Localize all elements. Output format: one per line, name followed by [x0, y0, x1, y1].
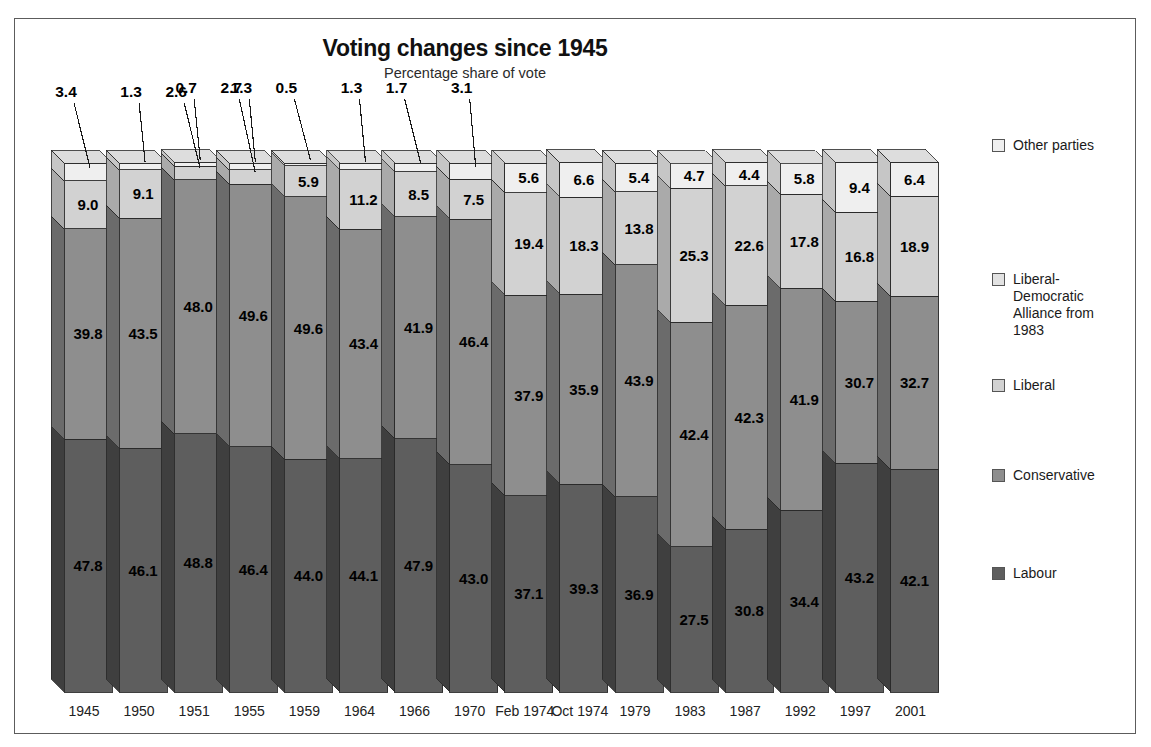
segment-value-label: 4.4: [739, 166, 761, 183]
segment-value-label: 9.1: [133, 185, 154, 202]
bar-segment-side: [712, 516, 725, 692]
bar-segment-side: [106, 435, 119, 692]
bar-segment-side: [712, 173, 725, 306]
bar-column[interactable]: 47.839.89.01945: [51, 150, 112, 719]
callout-value-label: 1.3: [231, 79, 253, 96]
bar-segment-other-parties[interactable]: [174, 162, 222, 166]
legend-swatch-icon: [992, 379, 1005, 392]
bar-segment-side: [492, 483, 505, 692]
segment-value-label: 43.2: [845, 569, 874, 586]
segment-value-label: 37.9: [514, 387, 543, 404]
segment-value-label: 5.4: [629, 169, 651, 186]
chart-frame: Voting changes since 1945 Percentage sha…: [14, 18, 1136, 734]
segment-value-label: 47.8: [73, 557, 102, 574]
segment-value-label: 5.9: [298, 173, 319, 190]
callout-value-label: 0.5: [276, 79, 298, 96]
bar-segment-side: [657, 175, 670, 322]
legend-swatch-icon: [992, 469, 1005, 482]
bar-segment-side: [602, 484, 615, 692]
bar-segment-liberal[interactable]: [174, 166, 222, 180]
segment-value-label: 16.8: [845, 248, 874, 265]
legend-item-label: Conservative: [1013, 467, 1095, 484]
segment-value-label: 37.1: [514, 585, 543, 602]
segment-value-label: 47.9: [404, 557, 433, 574]
bar-segment-side: [767, 181, 780, 288]
bar-column[interactable]: 47.941.98.51966: [382, 150, 443, 719]
bar-segment-other-parties[interactable]: [119, 163, 167, 170]
segment-value-label: 30.7: [845, 374, 874, 391]
segment-value-label: 25.3: [679, 247, 708, 264]
x-axis-tick-label: 1959: [289, 703, 320, 719]
bar-segment-side: [271, 184, 284, 459]
bar-column[interactable]: 44.143.411.21964: [327, 150, 388, 719]
segment-value-label: 35.9: [569, 381, 598, 398]
bar-segment-side: [547, 281, 560, 484]
bar-segment-side: [51, 426, 64, 692]
segment-value-label: 6.6: [573, 171, 594, 188]
segment-value-label: 49.6: [239, 307, 268, 324]
segment-value-label: 36.9: [624, 586, 653, 603]
legend-item[interactable]: Liberal- Democratic Alliance from 1983: [992, 271, 1094, 339]
legend-item-label: Other parties: [1013, 137, 1094, 154]
chart-page: Voting changes since 1945 Percentage sha…: [0, 0, 1151, 747]
bar-segment-other-parties[interactable]: [450, 163, 498, 179]
bar-segment-other-parties[interactable]: [340, 163, 388, 170]
bar-segment-other-parties[interactable]: [395, 163, 443, 172]
segment-value-label: 17.8: [790, 233, 819, 250]
legend-item-label: Liberal- Democratic Alliance from 1983: [1013, 271, 1094, 339]
bar-column[interactable]: 46.143.59.11950: [106, 150, 167, 719]
legend-item[interactable]: Other parties: [992, 137, 1094, 154]
stacked-bar-chart: 47.839.89.0194546.143.59.1195048.848.019…: [15, 19, 1135, 733]
bar-segment-side: [822, 199, 835, 301]
bar-column[interactable]: 39.335.918.36.6Oct 1974: [547, 149, 609, 719]
legend-item[interactable]: Conservative: [992, 467, 1095, 484]
bar-column[interactable]: 30.842.322.64.41987: [712, 149, 773, 719]
segment-value-label: 43.9: [624, 372, 653, 389]
x-axis-tick-label: 1951: [179, 703, 210, 719]
x-axis-tick-label: 2001: [895, 703, 926, 719]
bar-segment-side: [822, 288, 835, 463]
segment-value-label: 49.6: [294, 320, 323, 337]
segment-value-label: 5.8: [794, 170, 815, 187]
legend-swatch-icon: [992, 567, 1005, 580]
bar-segment-side: [327, 446, 340, 692]
segment-value-label: 39.3: [569, 580, 598, 597]
bar-segment-side: [878, 456, 891, 692]
bar-column[interactable]: 43.046.47.51970: [437, 150, 498, 719]
bar-column[interactable]: 27.542.425.34.71983: [657, 151, 718, 719]
legend-item[interactable]: Liberal: [992, 377, 1055, 394]
x-axis-tick-label: 1997: [840, 703, 871, 719]
legend-item[interactable]: Labour: [992, 565, 1057, 582]
x-axis-tick-label: 1966: [399, 703, 430, 719]
bar-segment-side: [216, 434, 229, 692]
bar-column[interactable]: 37.137.919.45.6Feb 1974: [492, 150, 555, 719]
segment-value-label: 44.1: [349, 567, 378, 584]
segment-value-label: 18.3: [569, 237, 598, 254]
x-axis-tick-label: 1979: [619, 703, 650, 719]
bar-segment-side: [382, 204, 395, 439]
bar-segment-side: [161, 167, 174, 434]
segment-value-label: 43.5: [128, 325, 157, 342]
bar-column[interactable]: 48.848.01951: [161, 149, 222, 719]
bar-column[interactable]: 46.449.61955: [216, 150, 277, 719]
segment-value-label: 7.5: [463, 191, 484, 208]
bar-segment-liberal[interactable]: [229, 170, 277, 184]
bar-segment-side: [51, 216, 64, 440]
bar-segment-other-parties[interactable]: [64, 163, 112, 181]
bar-column[interactable]: 42.132.718.96.42001: [878, 149, 939, 719]
segment-value-label: 48.8: [184, 554, 213, 571]
x-axis-tick-label: 1992: [785, 703, 816, 719]
x-axis-tick-label: 1987: [730, 703, 761, 719]
bar-segment-side: [602, 179, 615, 265]
segment-value-label: 43.4: [349, 335, 379, 352]
bar-column[interactable]: 36.943.913.85.41979: [602, 150, 663, 719]
bar-segment-side: [382, 426, 395, 692]
bar-segment-side: [547, 471, 560, 692]
segment-value-label: 48.0: [184, 298, 213, 315]
bar-column[interactable]: 44.049.65.91959: [271, 150, 332, 719]
bar-column[interactable]: 34.441.917.85.81992: [767, 151, 828, 719]
bar-segment-side: [547, 184, 560, 294]
bar-column[interactable]: 43.230.716.89.41997: [822, 149, 883, 719]
segment-value-label: 41.9: [404, 319, 433, 336]
segment-value-label: 9.0: [78, 196, 99, 213]
